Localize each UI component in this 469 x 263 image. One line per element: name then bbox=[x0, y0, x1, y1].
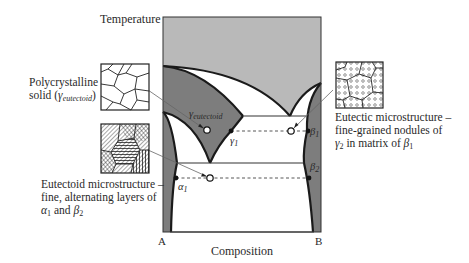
phase-label-gamma-eutectoid: γeutectoid bbox=[189, 107, 222, 123]
phase-label-alpha1: α1 bbox=[178, 180, 188, 196]
eutectic-marker bbox=[288, 128, 294, 134]
eutectoid-lamellar-inset bbox=[101, 124, 149, 173]
callout-polycrystalline: Polycrystalline solid (γeutectoid) bbox=[29, 76, 98, 105]
phase-label-beta1: β1 bbox=[310, 125, 319, 141]
axis-end-a: A bbox=[158, 235, 166, 248]
polycrystalline-inset bbox=[101, 64, 149, 110]
eutectoid-marker bbox=[207, 175, 213, 181]
eutectic-nodular-inset bbox=[336, 62, 383, 108]
beta2-point bbox=[307, 176, 312, 181]
gamma1-point bbox=[229, 129, 234, 134]
phase-label-beta2: β2 bbox=[310, 160, 319, 176]
callout-eutectic: Eutectic microstructure – fine-grained n… bbox=[335, 111, 451, 153]
gamma-eutectoid-marker bbox=[204, 127, 210, 133]
phase-label-gamma1: γ1 bbox=[230, 134, 238, 150]
axis-end-b: B bbox=[315, 235, 322, 248]
x-axis-label: Composition bbox=[211, 245, 273, 258]
y-axis-label: Temperature bbox=[100, 13, 160, 26]
callout-eutectoid: Eutectoid microstructure – fine, alterna… bbox=[41, 178, 164, 220]
